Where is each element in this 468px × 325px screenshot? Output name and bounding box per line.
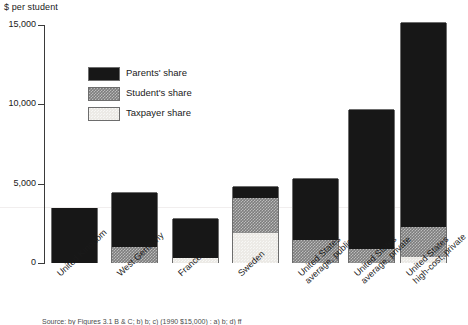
legend-label-parents: Parents' share — [126, 67, 187, 78]
y-tick-mark — [38, 184, 45, 185]
y-tick-mark — [38, 25, 45, 26]
legend-label-student: Student's share — [126, 87, 192, 98]
bar-segment-student — [233, 197, 278, 233]
y-tick-label: 5,000 — [0, 178, 36, 188]
legend-swatch-parents — [88, 67, 120, 81]
plot-area — [45, 18, 428, 263]
bar-segment-parents — [293, 178, 338, 240]
legend-label-taxpayer: Taxpayer share — [126, 107, 191, 118]
y-tick-label: 10,000 — [0, 98, 36, 108]
bar-segment-parents — [349, 109, 394, 249]
y-tick-label: 0 — [0, 257, 36, 267]
bar-united-states-high-cost-private[interactable] — [400, 23, 447, 263]
source-note: Source: by Figures 3.1 B & C; b) b; c) (… — [42, 318, 428, 325]
y-axis-title: $ per student — [4, 2, 58, 12]
bar-segment-parents — [233, 186, 278, 198]
y-tick-mark — [38, 263, 45, 264]
legend-swatch-taxpayer — [88, 107, 120, 121]
legend-swatch-student — [88, 87, 120, 101]
bar-segment-parents — [401, 22, 446, 227]
y-tick-label: 15,000 — [0, 19, 36, 29]
y-tick-mark — [38, 104, 45, 105]
